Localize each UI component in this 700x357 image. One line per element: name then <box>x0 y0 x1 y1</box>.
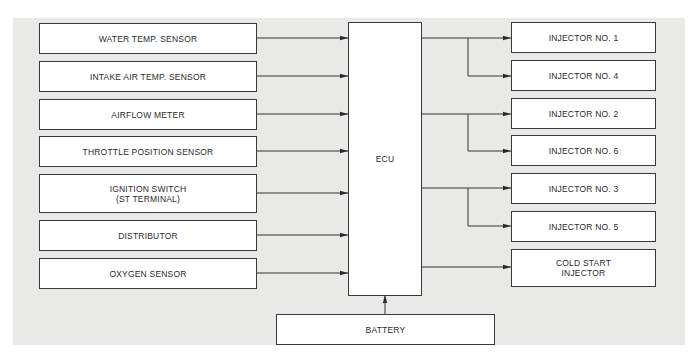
output-label: INJECTOR NO. 6 <box>549 146 619 156</box>
battery-label: BATTERY <box>366 325 406 335</box>
output-label: COLD START <box>556 258 611 268</box>
input-label: WATER TEMP. SENSOR <box>99 34 198 44</box>
input-airflow-meter: AIRFLOW METER <box>39 99 257 130</box>
output-label: INJECTOR NO. 1 <box>549 33 619 43</box>
output-injector-4: INJECTOR NO. 4 <box>511 60 656 91</box>
input-water-temp-sensor: WATER TEMP. SENSOR <box>39 23 257 54</box>
input-label: THROTTLE POSITION SENSOR <box>83 147 214 157</box>
ecu-label: ECU <box>376 154 395 164</box>
input-label: DISTRIBUTOR <box>118 231 178 241</box>
input-ignition-switch: IGNITION SWITCH(ST TERMINAL) <box>39 174 257 213</box>
input-sublabel: (ST TERMINAL) <box>116 194 180 204</box>
output-injector-6: INJECTOR NO. 6 <box>511 135 656 166</box>
input-label: OXYGEN SENSOR <box>109 269 186 279</box>
output-injector-3: INJECTOR NO. 3 <box>511 173 656 204</box>
output-injector-2: INJECTOR NO. 2 <box>511 98 656 129</box>
output-label: INJECTOR NO. 2 <box>549 109 619 119</box>
input-throttle-position-sensor: THROTTLE POSITION SENSOR <box>39 136 257 167</box>
ecu-block: ECU <box>348 22 422 296</box>
input-oxygen-sensor: OXYGEN SENSOR <box>39 258 257 289</box>
battery-block: BATTERY <box>276 314 495 345</box>
input-distributor: DISTRIBUTOR <box>39 220 257 251</box>
input-label: AIRFLOW METER <box>111 110 184 120</box>
output-label: INJECTOR NO. 5 <box>549 222 619 232</box>
output-injector-1: INJECTOR NO. 1 <box>511 22 656 53</box>
input-label: IGNITION SWITCH <box>110 184 187 194</box>
output-label: INJECTOR NO. 4 <box>549 71 619 81</box>
output-sublabel: INJECTOR <box>562 268 606 278</box>
input-intake-air-temp-sensor: INTAKE AIR TEMP. SENSOR <box>39 61 257 92</box>
output-cold-start-injector: COLD STARTINJECTOR <box>511 249 656 287</box>
output-label: INJECTOR NO. 3 <box>549 184 619 194</box>
output-injector-5: INJECTOR NO. 5 <box>511 211 656 242</box>
input-label: INTAKE AIR TEMP. SENSOR <box>90 72 206 82</box>
